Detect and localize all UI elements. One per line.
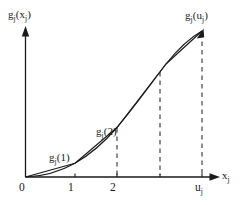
x-tick-label-0: 0 — [19, 181, 25, 193]
endpoint-label: gj(uj) — [185, 10, 208, 23]
x-tick-label-u: uj — [195, 181, 203, 196]
segment-2-label: gj(2) — [96, 126, 117, 139]
endpoint-label-close: ) — [204, 9, 208, 21]
x-axis — [26, 173, 221, 180]
x-axis-label: xj — [222, 170, 230, 183]
x-tick-label-1-text: 1 — [68, 181, 74, 193]
x-tick-label-1: 1 — [68, 181, 74, 193]
y-axis-label: gj(xj) — [8, 9, 31, 22]
segment-2-label-close: ) — [113, 125, 117, 137]
segment-1-label: gj(1) — [49, 152, 70, 165]
x-tick-label-0-text: 0 — [19, 181, 25, 193]
x-axis-label-sub: j — [228, 175, 230, 184]
x-tick-label-2-text: 2 — [110, 181, 116, 193]
dashed-droplines — [117, 33, 202, 175]
y-axis — [22, 26, 29, 177]
y-axis-label-close: ) — [27, 8, 31, 20]
x-tick-label-2: 2 — [110, 181, 116, 193]
segment-1-label-close: ) — [66, 151, 70, 163]
convex-function-piecewise-linear-figure — [0, 0, 241, 205]
x-tick-label-u-sub: j — [201, 187, 203, 196]
